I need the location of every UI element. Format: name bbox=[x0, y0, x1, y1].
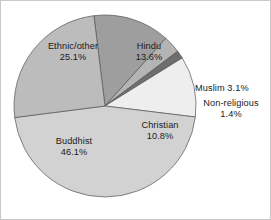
pie-slice-group bbox=[14, 15, 196, 197]
pie-slice-ethnic-other bbox=[14, 16, 105, 118]
pie-chart-figure: Ethnic/other 25.1% Hindu 13.6% Muslim 3.… bbox=[0, 0, 271, 220]
pie-chart-svg bbox=[1, 1, 271, 220]
pie-slice-buddhist bbox=[15, 106, 196, 197]
